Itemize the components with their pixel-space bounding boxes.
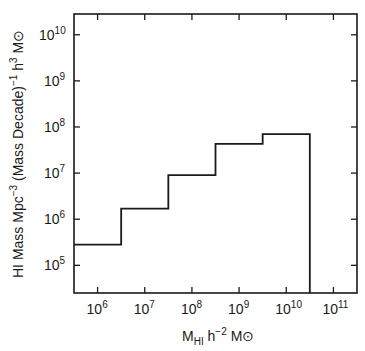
- y-tick-label: 107: [44, 163, 66, 181]
- x-axis-label: MHI h−2 M⊙: [182, 326, 254, 347]
- histogram-step-line: [74, 134, 310, 293]
- y-tick-label: 1010: [39, 25, 66, 43]
- x-axis-label-text: MHI h−2 M⊙: [182, 326, 254, 347]
- x-tick-label: 108: [181, 299, 203, 317]
- y-axis-label: HI Mass Mpc−3 (Mass Decade)−1 h3 M⊙: [8, 30, 26, 278]
- x-tick-label: 1011: [322, 299, 348, 317]
- x-tick-label: 1010: [275, 299, 302, 317]
- y-axis-label-text: HI Mass Mpc−3 (Mass Decade)−1 h3 M⊙: [8, 30, 26, 278]
- histogram-chart: 10610710810910101011 1051061071081091010…: [0, 0, 365, 351]
- y-tick-label: 105: [44, 255, 66, 273]
- y-tick-label: 106: [44, 209, 66, 227]
- y-tick-label: 109: [44, 71, 66, 89]
- x-tick-label: 106: [87, 299, 109, 317]
- x-tick-label: 109: [228, 299, 250, 317]
- x-tick-label: 107: [134, 299, 156, 317]
- y-tick-label: 108: [44, 117, 66, 135]
- histogram-step-path: [74, 134, 310, 293]
